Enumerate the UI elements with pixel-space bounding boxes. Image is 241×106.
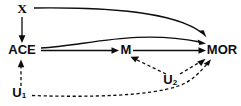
node-m-label: M (121, 42, 132, 57)
node-mor-label: MOR (207, 42, 238, 57)
edge-ace-to-mor-arrowhead (198, 39, 206, 45)
node-x: X (17, 1, 27, 16)
node-m: M (121, 42, 132, 57)
edge-u2-to-m-line (136, 60, 166, 75)
edge-u2-to-m (131, 57, 167, 75)
edge-u2-to-mor-arrowhead (197, 59, 205, 66)
node-ace-label: ACE (8, 42, 36, 57)
node-u1-label: U (12, 85, 21, 100)
node-u2-label: U (163, 72, 172, 87)
node-u1-subscript: 1 (22, 91, 27, 100)
edge-x-to-mor-line (34, 8, 202, 33)
edge-u1-to-mor (32, 59, 211, 96)
dag-canvas: X ACE M MOR U 1 U 2 (0, 0, 241, 106)
edge-ace-to-m-arrowhead (112, 47, 120, 54)
edge-x-to-mor-arrowhead (199, 30, 207, 37)
edge-m-to-mor-arrowhead (199, 47, 207, 54)
edge-u2-to-m-arrowhead (131, 57, 140, 63)
edge-u1-to-ace-arrowhead (18, 60, 25, 68)
node-mor: MOR (207, 42, 238, 57)
edge-u2-to-mor-line (180, 62, 200, 74)
node-ace: ACE (8, 42, 36, 57)
edge-x-to-mor (34, 8, 207, 38)
node-u2-subscript: 2 (173, 78, 178, 87)
edge-u1-to-ace (18, 60, 25, 87)
node-u2: U 2 (163, 72, 177, 87)
edge-ace-to-m (41, 47, 119, 54)
node-u1: U 1 (12, 85, 26, 100)
edge-m-to-mor (133, 47, 206, 54)
edge-u1-to-mor-line (32, 64, 207, 96)
node-x-label: X (17, 1, 27, 16)
edge-u2-to-mor (180, 59, 206, 74)
edge-x-to-ace (19, 17, 26, 43)
causal-diagram: X ACE M MOR U 1 U 2 (0, 0, 241, 106)
edge-u1-to-mor-arrowhead (204, 59, 211, 66)
